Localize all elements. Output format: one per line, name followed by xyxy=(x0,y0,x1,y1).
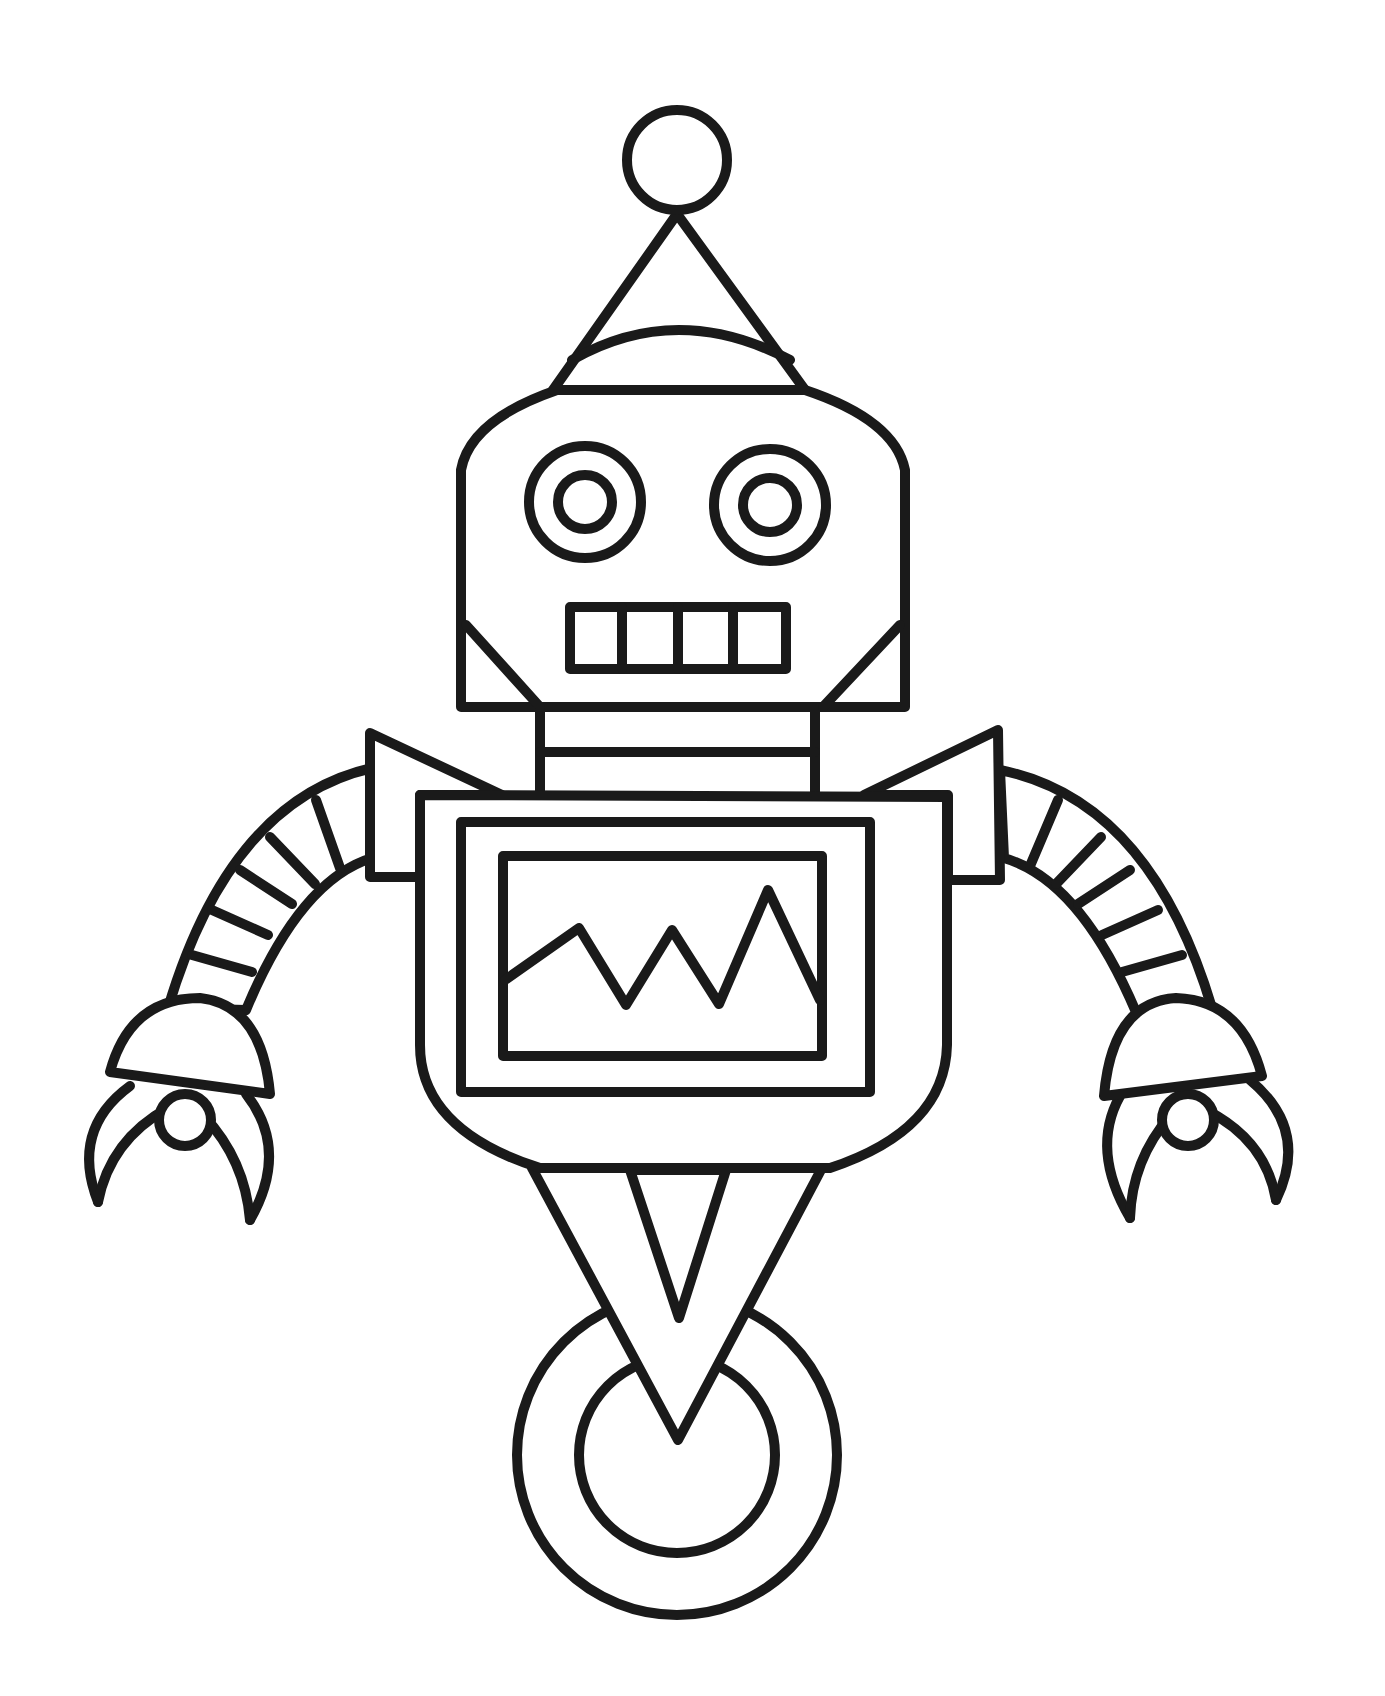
antenna xyxy=(553,110,805,390)
right-hand-dome xyxy=(1104,998,1262,1096)
body xyxy=(420,795,947,1168)
chest-screen xyxy=(503,856,822,1056)
antenna-ball xyxy=(627,110,727,210)
left-wrist-joint xyxy=(159,1094,211,1146)
right-wrist-joint xyxy=(1162,1094,1214,1146)
neck xyxy=(540,707,815,797)
head xyxy=(461,390,905,707)
coloring-page-canvas: Robot coloring page xyxy=(0,0,1385,1696)
antenna-cone xyxy=(553,214,805,390)
left-hand xyxy=(89,998,270,1220)
right-hand xyxy=(1104,998,1288,1218)
robot-drawing xyxy=(0,0,1385,1696)
